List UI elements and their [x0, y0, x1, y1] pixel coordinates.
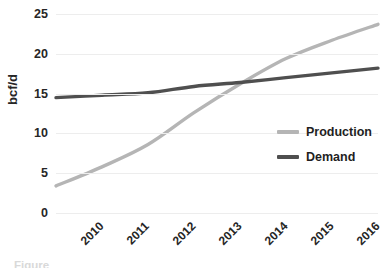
gridline-y-5 — [56, 173, 378, 174]
x-tick-label-2015: 2015 — [308, 219, 337, 248]
x-tick-label-2016: 2016 — [354, 219, 383, 248]
gridline-y-15 — [56, 94, 378, 95]
x-tick-label-2011: 2011 — [124, 219, 152, 247]
legend-item-demand: Demand — [277, 144, 385, 169]
y-tick-label-10: 10 — [24, 126, 48, 140]
x-tick-label-2012: 2012 — [170, 219, 199, 248]
figure-chart-gas-production-demand: bcf/d 0510152025 20102011201220132014201… — [0, 0, 388, 268]
plot-area — [56, 14, 378, 213]
x-tick-label-2013: 2013 — [216, 219, 245, 248]
y-tick-label-25: 25 — [24, 7, 48, 21]
gridline-y-25 — [56, 14, 378, 15]
gridline-y-20 — [56, 54, 378, 55]
y-tick-label-5: 5 — [24, 166, 48, 180]
legend-swatch-demand — [277, 155, 299, 159]
x-tick-label-2014: 2014 — [262, 219, 291, 248]
y-axis-tick-labels: 0510152025 — [24, 0, 48, 220]
y-tick-label-0: 0 — [24, 206, 48, 220]
figure-caption: Figure — [14, 259, 384, 268]
x-tick-label-2010: 2010 — [78, 219, 107, 248]
legend-item-production: Production — [277, 119, 385, 144]
y-tick-label-20: 20 — [24, 47, 48, 61]
chart-legend: ProductionDemand — [277, 119, 385, 169]
legend-swatch-production — [277, 130, 299, 134]
legend-label-production: Production — [306, 125, 372, 139]
legend-label-demand: Demand — [306, 150, 355, 164]
y-tick-label-15: 15 — [24, 87, 48, 101]
y-axis-title: bcf/d — [5, 60, 20, 120]
series-layer — [56, 14, 378, 213]
x-axis-tick-labels: 20102011201220132014201520162017 — [56, 213, 378, 263]
